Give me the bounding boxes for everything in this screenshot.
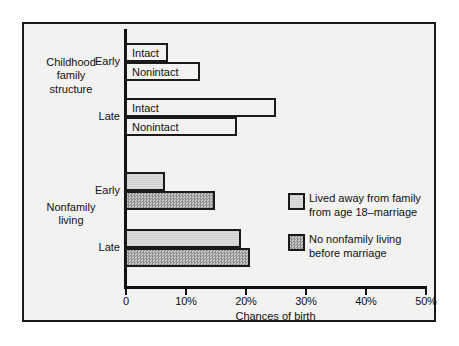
bar-chart-figure: 0 10% 20% 30% 40% 50% Chances of birth C… bbox=[0, 0, 459, 346]
legend-label-no-nonfamily-line-1: No nonfamily living bbox=[309, 233, 428, 247]
bar-label-childhood-late-nonintact: Nonintact bbox=[132, 121, 178, 132]
legend-label-no-nonfamily-line-2: before marriage bbox=[309, 247, 428, 261]
bar-label-childhood-early-intact: Intact bbox=[132, 47, 159, 58]
x-axis-label: Chances of birth bbox=[124, 310, 427, 322]
bar-childhood-late-nonintact: Nonintact bbox=[125, 117, 237, 136]
group-label-line-2: family bbox=[57, 69, 86, 81]
legend: Lived away from family from age 18–marri… bbox=[288, 192, 428, 274]
legend-swatch-light-icon bbox=[288, 193, 305, 210]
group-label-line-2: living bbox=[58, 214, 83, 226]
y-tick-label-childhood-early: Early bbox=[60, 55, 120, 68]
y-tick-label-nonfamily-early: Early bbox=[60, 184, 120, 197]
bar-label-childhood-early-nonintact: Nonintact bbox=[132, 66, 178, 77]
bar-nonfamily-early-lived-away bbox=[125, 172, 165, 191]
bar-nonfamily-late-no-nonfamily bbox=[125, 248, 250, 267]
x-tick-label-10: 10% bbox=[166, 295, 206, 307]
bar-childhood-early-nonintact: Nonintact bbox=[125, 62, 200, 81]
bar-childhood-late-intact: Intact bbox=[125, 98, 276, 117]
group-label-nonfamily-living: Nonfamily living bbox=[28, 201, 114, 228]
bar-nonfamily-early-no-nonfamily bbox=[125, 191, 215, 210]
legend-item-no-nonfamily: No nonfamily living before marriage bbox=[288, 233, 428, 261]
group-label-line-1: Nonfamily bbox=[47, 201, 96, 213]
legend-item-lived-away: Lived away from family from age 18–marri… bbox=[288, 192, 428, 220]
y-tick-label-childhood-late: Late bbox=[60, 110, 120, 123]
x-tick-label-30: 30% bbox=[286, 295, 326, 307]
legend-label-lived-away-line-2: from age 18–marriage bbox=[309, 206, 428, 220]
y-tick-label-nonfamily-late: Late bbox=[60, 241, 120, 254]
bar-label-childhood-late-intact: Intact bbox=[132, 102, 159, 113]
x-tick-label-20: 20% bbox=[226, 295, 266, 307]
group-label-line-3: structure bbox=[50, 83, 93, 95]
bar-childhood-early-intact: Intact bbox=[125, 43, 168, 62]
x-tick-label-40: 40% bbox=[346, 295, 386, 307]
legend-swatch-dark-icon bbox=[288, 234, 305, 251]
bar-nonfamily-late-lived-away bbox=[125, 229, 241, 248]
x-axis-line bbox=[124, 286, 427, 289]
x-tick-label-0: 0 bbox=[106, 295, 146, 307]
legend-label-lived-away-line-1: Lived away from family bbox=[309, 192, 428, 206]
x-tick-label-50: 50% bbox=[406, 295, 446, 307]
